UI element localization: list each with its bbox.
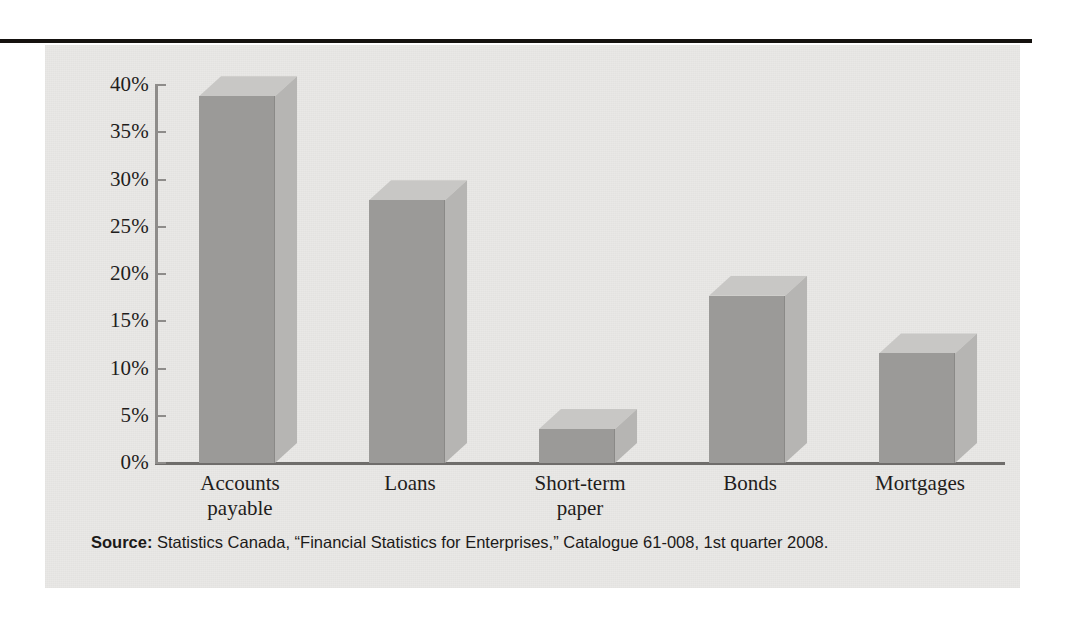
y-axis-tick-label-text: 20% <box>87 263 149 284</box>
y-axis-tick-label: 40% <box>75 74 149 95</box>
y-axis-tick-label: 30% <box>75 169 149 190</box>
x-axis-category-label: Loans <box>325 471 495 496</box>
x-axis-category-label-line: paper <box>495 496 665 521</box>
bar-front-face <box>539 429 615 463</box>
bar-column <box>369 180 467 463</box>
figure-page: 0%5%10%15%20%25%30%35%40% Accountspayabl… <box>0 0 1081 619</box>
source-text: Statistics Canada, “Financial Statistics… <box>152 533 828 551</box>
x-axis-category-label-line: payable <box>155 496 325 521</box>
y-axis-tick-label: 15% <box>75 310 149 331</box>
y-axis-tick-label-text: 25% <box>87 216 149 237</box>
y-axis-tick-label-text: 0% <box>87 452 149 473</box>
x-axis-category-label-line: Mortgages <box>835 471 1005 496</box>
source-note: Source: Statistics Canada, “Financial St… <box>91 532 991 552</box>
y-axis-tick-label-text: 35% <box>87 121 149 142</box>
x-axis-category-label-line: Loans <box>325 471 495 496</box>
x-axis-category-label: Mortgages <box>835 471 1005 496</box>
figure-panel: 0%5%10%15%20%25%30%35%40% Accountspayabl… <box>45 45 1020 588</box>
y-axis-tick-label-text: 30% <box>87 169 149 190</box>
bar-front-face <box>709 296 785 463</box>
bar-column <box>879 333 977 463</box>
y-axis-tick-label: 10% <box>75 358 149 379</box>
x-axis-category-label-line: Bonds <box>665 471 835 496</box>
y-axis-tick-label-text: 15% <box>87 310 149 331</box>
bar-column <box>539 409 637 463</box>
bar-column <box>199 76 297 463</box>
bar-side-face <box>955 333 977 463</box>
y-axis-tick-label: 5% <box>75 405 149 426</box>
bar-column <box>709 276 807 463</box>
bar-side-face <box>785 276 807 463</box>
x-axis-category-label-line: Short-term <box>495 471 665 496</box>
bar-front-face <box>369 200 445 463</box>
top-horizontal-rule <box>0 39 1032 43</box>
bar-series <box>155 85 1005 463</box>
x-axis-category-label: Accountspayable <box>155 471 325 521</box>
bar-side-face <box>445 180 467 463</box>
x-axis-category-label: Bonds <box>665 471 835 496</box>
y-axis-tick-label: 20% <box>75 263 149 284</box>
y-axis-tick-label: 0% <box>75 452 149 473</box>
bar-front-face <box>879 353 955 463</box>
y-axis-tick-label-text: 5% <box>87 405 149 426</box>
y-axis-tick-label: 25% <box>75 216 149 237</box>
y-axis-tick-label-text: 10% <box>87 358 149 379</box>
bar-side-face <box>275 76 297 463</box>
bar-chart: 0%5%10%15%20%25%30%35%40% Accountspayabl… <box>45 45 1020 523</box>
y-axis-tick-label-text: 40% <box>87 74 149 95</box>
source-label: Source: <box>91 533 152 551</box>
y-axis-tick-label: 35% <box>75 121 149 142</box>
x-axis-category-label-line: Accounts <box>155 471 325 496</box>
x-axis-category-label: Short-termpaper <box>495 471 665 521</box>
bar-front-face <box>199 96 275 463</box>
